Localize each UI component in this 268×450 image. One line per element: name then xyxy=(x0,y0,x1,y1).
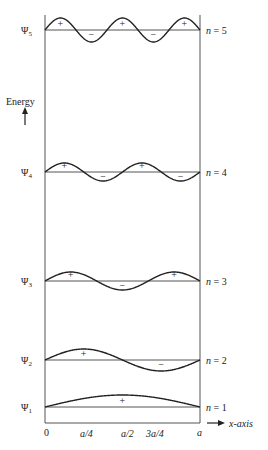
n-label: n = 5 xyxy=(206,25,227,36)
plus-sign: + xyxy=(120,18,126,29)
plus-sign: + xyxy=(139,160,145,171)
levels-group: +−+−+Ψ5n = 5+−+−Ψ4n = 4+−+Ψ3n = 3+−Ψ2n =… xyxy=(21,18,227,415)
plus-sign: + xyxy=(171,269,177,280)
minus-sign: − xyxy=(158,359,164,370)
psi-label: Ψ5 xyxy=(21,25,32,38)
energy-label: Energy xyxy=(6,96,35,107)
x-axis-arrowhead-icon xyxy=(218,420,225,426)
level-n1: +Ψ1n = 1 xyxy=(21,395,227,415)
level-n3: +−+Ψ3n = 3 xyxy=(21,269,227,291)
psi-label: Ψ3 xyxy=(21,276,32,289)
tick-3a-quarter: 3a/4 xyxy=(145,428,164,439)
tick-0: 0 xyxy=(44,427,49,438)
plus-sign: + xyxy=(81,348,87,359)
energy-level-diagram: +−+−+Ψ5n = 5+−+−Ψ4n = 4+−+Ψ3n = 3+−Ψ2n =… xyxy=(0,0,268,450)
plus-sign: + xyxy=(68,269,74,280)
minus-sign: − xyxy=(89,29,95,40)
psi-label: Ψ2 xyxy=(21,355,32,368)
level-n2: +−Ψ2n = 2 xyxy=(21,348,227,371)
plus-sign: + xyxy=(61,160,67,171)
level-n4: +−+−Ψ4n = 4 xyxy=(21,160,227,182)
n-label: n = 2 xyxy=(206,355,227,366)
psi-label: Ψ4 xyxy=(21,167,32,180)
psi-label: Ψ1 xyxy=(21,402,32,415)
n-label: n = 1 xyxy=(206,402,227,413)
minus-sign: − xyxy=(151,29,157,40)
plus-sign: + xyxy=(182,18,188,29)
minus-sign: − xyxy=(178,171,184,182)
plus-sign: + xyxy=(120,395,126,406)
tick-a: a xyxy=(197,427,202,438)
plus-sign: + xyxy=(58,18,64,29)
n-label: n = 3 xyxy=(206,276,227,287)
energy-arrowhead-icon xyxy=(22,107,28,114)
n-label: n = 4 xyxy=(206,167,227,178)
minus-sign: − xyxy=(100,171,106,182)
level-n5: +−+−+Ψ5n = 5 xyxy=(21,18,227,42)
x-axis-label: x-axis xyxy=(228,418,253,429)
minus-sign: − xyxy=(120,280,126,291)
tick-a-half: a/2 xyxy=(121,428,134,439)
tick-a-quarter: a/4 xyxy=(80,428,93,439)
